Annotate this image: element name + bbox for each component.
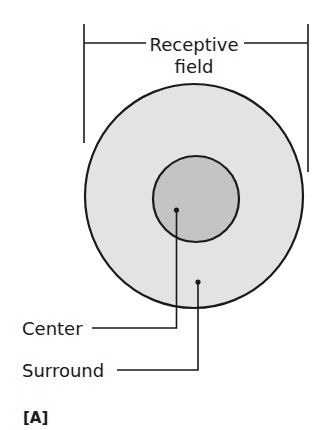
- receptive-field-title-line2: field: [146, 58, 242, 76]
- center-label: Center: [22, 320, 83, 338]
- receptive-field-title-line1: Receptive: [146, 36, 242, 54]
- receptive-field-diagram: Receptive field Center Surround [A]: [0, 0, 326, 430]
- surround-label: Surround: [22, 362, 104, 380]
- center-circle: [153, 156, 239, 242]
- panel-label: [A]: [23, 411, 48, 426]
